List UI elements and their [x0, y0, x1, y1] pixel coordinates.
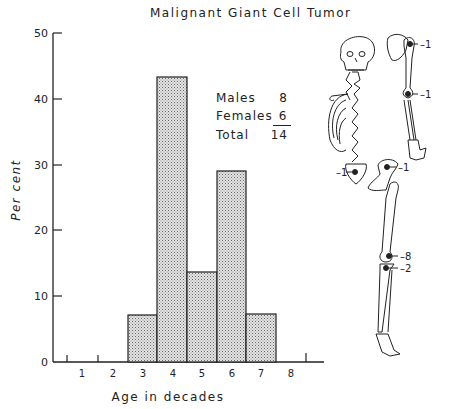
skeleton-axial-illustration	[329, 37, 375, 184]
legend-females-label: Females	[216, 107, 273, 126]
legend-females-value: 6	[273, 107, 292, 126]
y-tick-label: 10	[34, 290, 48, 303]
annotation-distal-femur-count: –8	[400, 251, 411, 262]
x-axis-label: Age in decades	[112, 390, 225, 404]
skull-icon	[340, 37, 374, 70]
x-tick-label: 3	[140, 368, 146, 379]
y-axis-label: Per cent	[9, 159, 23, 221]
annotation-proximal-tibia-count: –2	[400, 263, 411, 274]
legend-males-value: 8	[279, 89, 288, 107]
y-tick-label: 30	[34, 159, 48, 172]
annotation-sacrum-count: –1	[336, 167, 347, 178]
legend-males-label: Males	[216, 89, 256, 107]
y-tick-label: 50	[34, 27, 48, 40]
y-tick-label: 0	[41, 356, 48, 369]
x-tick-label: 7	[258, 368, 264, 379]
skeleton-leg-illustration	[368, 160, 400, 356]
ribcage-icon	[329, 94, 348, 152]
pelvis-icon	[368, 160, 398, 191]
bar-age-5	[187, 272, 217, 362]
bar-age-7	[246, 314, 276, 362]
y-axis: 0 10 20 30 40 50	[34, 27, 62, 369]
legend-total-value: 14	[271, 126, 288, 144]
annotation-elbow-count: –1	[420, 89, 431, 100]
spine-icon	[352, 72, 360, 162]
x-tick-label: 6	[229, 368, 235, 379]
x-tick-label: 2	[110, 368, 116, 379]
bar-age-6	[217, 171, 246, 362]
bar-age-4	[157, 77, 187, 362]
y-tick-label: 40	[34, 93, 48, 106]
x-tick-label: 4	[170, 368, 176, 379]
femur-icon	[380, 182, 398, 262]
bar-age-3	[128, 315, 157, 362]
hand-icon	[408, 140, 426, 160]
legend: Males 8 Females 6 Total 14	[216, 89, 288, 144]
annotation-shoulder-count: –1	[420, 39, 431, 50]
legend-females-row: Females 6	[216, 107, 288, 126]
y-tick-label: 20	[34, 224, 48, 237]
legend-total-label: Total	[216, 126, 249, 144]
annotation-hip-count: –1	[398, 162, 409, 173]
chart-canvas: 0 10 20 30 40 50 1 2 3 4 5 6 7 8 Age in …	[0, 0, 452, 409]
scapula-icon	[387, 34, 408, 60]
legend-total-row: Total 14	[216, 126, 288, 144]
x-tick-label: 1	[79, 368, 85, 379]
x-tick-label: 8	[288, 368, 294, 379]
x-tick-label: 5	[199, 368, 205, 379]
forearm-icon	[404, 100, 416, 140]
legend-males-row: Males 8	[216, 89, 288, 107]
foot-icon	[376, 334, 400, 356]
